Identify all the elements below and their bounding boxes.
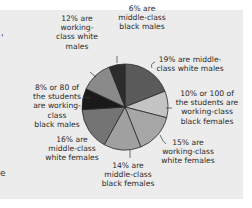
label-wc-black-males: 8% or 80 of the students are working-cla… — [25, 83, 89, 129]
label-mc-black-females: 14% are middle-class black females — [98, 161, 158, 189]
label-wc-white-males: 12% are working- class white males — [50, 14, 104, 51]
label-wc-black-females: 10% or 100 of the students are working-c… — [172, 89, 242, 126]
label-mc-black-males: 6% are middle-class black males — [111, 4, 173, 32]
label-wc-white-females: 15% are working-class white females — [155, 138, 221, 166]
label-mc-white-females: 16% are middle-class white females — [44, 135, 100, 163]
label-mc-white-males: 19% are middle- class white males — [150, 55, 230, 73]
